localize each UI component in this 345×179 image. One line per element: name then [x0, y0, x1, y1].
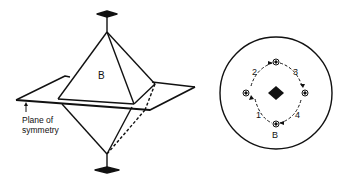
plane-back-left-edge [16, 76, 70, 100]
plane-front-edge [16, 87, 195, 110]
bipyramid-figure [16, 11, 195, 173]
plane-back-right-edge [152, 82, 195, 87]
plane-label-line1: Plane of [22, 115, 54, 125]
face-label: B [98, 70, 105, 81]
position-4-label: 4 [295, 110, 300, 120]
diagram-canvas: B Plane of symmetry 1 2 3 4 B [0, 0, 345, 179]
position-3-label: 3 [293, 67, 298, 77]
position-1-label: 1 [256, 110, 261, 120]
plane-label-line2: symmetry [22, 125, 60, 135]
bottom-position-label: B [272, 130, 278, 140]
position-2-label: 2 [252, 67, 257, 77]
bottom-axis-symbol-icon [95, 167, 119, 173]
center-twofold-icon [268, 86, 284, 100]
stereogram: 1 2 3 4 B [220, 37, 332, 149]
